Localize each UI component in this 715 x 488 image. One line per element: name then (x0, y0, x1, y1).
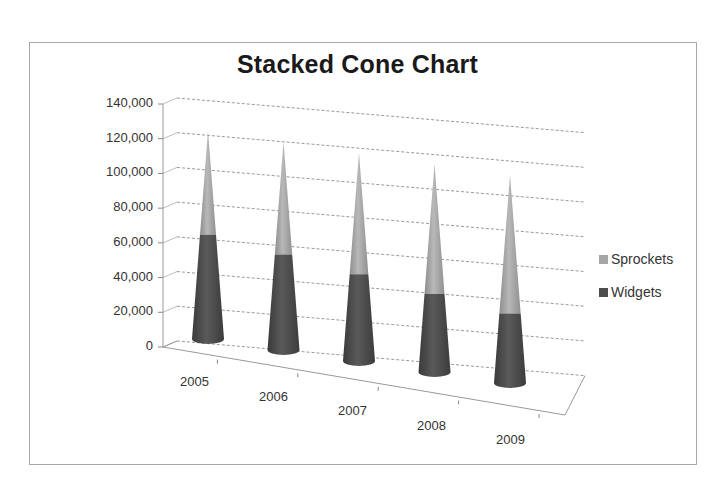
y-tick-label: 120,000 (73, 130, 153, 145)
cone-2005 (192, 131, 224, 344)
sprockets-swatch-icon (599, 255, 608, 264)
legend-label: Widgets (611, 284, 662, 300)
x-tick-label: 2008 (417, 418, 446, 433)
cone-2006 (268, 142, 300, 355)
x-tick-label: 2005 (180, 374, 209, 389)
cones (192, 131, 526, 388)
legend-item-sprockets: Sprockets (599, 251, 673, 267)
legend: Sprockets Widgets (599, 251, 673, 317)
widgets-swatch-icon (599, 288, 608, 297)
x-tick-label: 2009 (496, 432, 525, 447)
y-tick-label: 60,000 (73, 234, 153, 249)
cone-2007 (343, 153, 375, 366)
x-tick-label: 2007 (338, 403, 367, 418)
y-tick-label: 0 (73, 338, 153, 353)
cone-2009 (494, 175, 526, 388)
legend-label: Sprockets (611, 251, 673, 267)
y-tick-label: 140,000 (73, 95, 153, 110)
legend-item-widgets: Widgets (599, 284, 673, 300)
y-tick-label: 40,000 (73, 269, 153, 284)
y-tick-label: 20,000 (73, 303, 153, 318)
x-tick-label: 2006 (259, 389, 288, 404)
cone-2008 (419, 164, 451, 377)
y-tick-label: 80,000 (73, 199, 153, 214)
y-tick-label: 100,000 (73, 164, 153, 179)
